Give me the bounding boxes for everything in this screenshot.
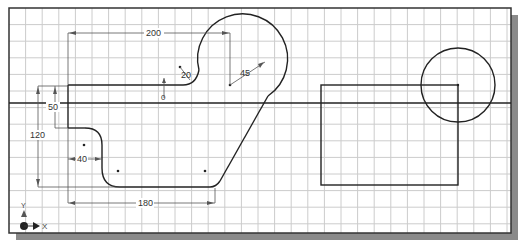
- ucs-x-label: X: [42, 222, 48, 231]
- dim-40[interactable]: 40: [77, 154, 87, 164]
- dim-180[interactable]: 180: [138, 198, 153, 208]
- cad-drawing-viewport[interactable]: 200 50 120 40 180 45 20 0 Y X: [0, 0, 525, 241]
- dim-45[interactable]: 45: [240, 68, 250, 78]
- dim-50[interactable]: 50: [48, 102, 58, 112]
- dim-200[interactable]: 200: [146, 28, 161, 38]
- drawing-area[interactable]: [9, 8, 511, 233]
- dim-0[interactable]: 0: [161, 93, 166, 102]
- ucs-y-label: Y: [21, 202, 26, 209]
- dim-r20[interactable]: 20: [181, 70, 191, 80]
- dim-120[interactable]: 120: [30, 130, 45, 140]
- circle-center: [457, 84, 459, 86]
